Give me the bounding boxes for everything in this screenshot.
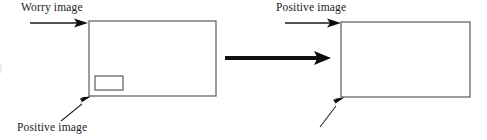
left-edge-artifact — [0, 64, 2, 73]
positive-image-left-arrow-shaft — [61, 104, 82, 121]
right-outer-box — [341, 22, 470, 97]
positive-image-right-label: Positive image — [276, 1, 346, 14]
positive-image-bottom-right-arrow-shaft — [320, 106, 336, 127]
diagram-canvas — [0, 0, 487, 140]
figure-container: Worry image Positive image Positive imag… — [0, 0, 487, 140]
positive-image-left-label: Positive image — [17, 121, 87, 134]
worry-image-arrow — [30, 18, 88, 27]
left-inner-box — [95, 76, 123, 90]
positive-image-bottom-right-arrow — [320, 98, 344, 128]
left-outer-box — [89, 21, 216, 96]
worry-image-label: Worry image — [21, 1, 83, 14]
transition-arrow — [225, 51, 331, 65]
positive-image-right-arrow — [285, 18, 341, 27]
positive-image-left-arrow — [61, 97, 91, 122]
